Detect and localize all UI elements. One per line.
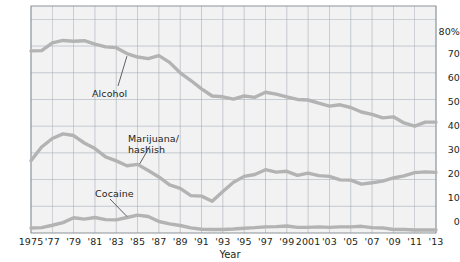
y-tick-label: 70 — [434, 49, 460, 59]
y-tick-label: 20 — [434, 169, 460, 179]
series-label-cocaine: Cocaine — [95, 188, 134, 199]
series-label-alcohol: Alcohol — [92, 88, 127, 99]
y-tick-label: 50 — [434, 97, 460, 107]
y-tick-label: 60 — [434, 73, 460, 83]
y-tick-label: 30 — [434, 145, 460, 155]
chart-container: 80% 70 60 50 40 30 20 10 0 1975'77'79'81… — [0, 0, 460, 262]
y-tick-label: 0 — [434, 217, 460, 227]
chart-plot-svg — [0, 0, 460, 262]
y-tick-label: 80% — [434, 27, 460, 37]
x-tick-label: '13 — [416, 237, 456, 247]
series-label-marijuana: Marijuana/ hashish — [128, 133, 179, 155]
y-tick-label: 10 — [434, 193, 460, 203]
y-tick-label: 40 — [434, 121, 460, 131]
x-axis-title: Year — [170, 249, 290, 260]
